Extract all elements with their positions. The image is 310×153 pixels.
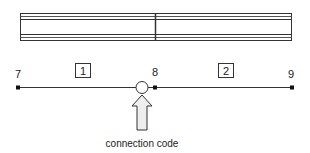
structural-diagram: 7 8 9 1 2 connection code [0, 0, 310, 153]
node-label-9: 9 [288, 68, 294, 80]
node-9-marker [290, 86, 294, 90]
element-label-1: 1 [80, 65, 86, 77]
node-label-8: 8 [152, 66, 158, 78]
node-8-marker [153, 86, 157, 90]
element-label-2: 2 [223, 65, 229, 77]
node-7-marker [16, 86, 20, 90]
beam-elevation [21, 14, 292, 41]
up-arrow-icon [132, 95, 152, 130]
node-label-7: 7 [15, 68, 21, 80]
analytical-model: 7 8 9 1 2 [15, 64, 294, 94]
connection-code-caption: connection code [106, 138, 179, 149]
hinge-circle-icon [136, 82, 148, 94]
